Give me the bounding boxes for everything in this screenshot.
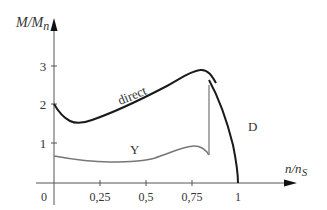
y-axis-title-main: M/M	[15, 15, 45, 30]
label-y: Y	[130, 142, 140, 157]
curve-d	[209, 80, 238, 183]
x-axis-title-sub: S	[302, 166, 308, 178]
y-axis-title-sub: n	[43, 19, 49, 33]
origin-label: 0	[41, 190, 47, 204]
y-tick-label-2: 2	[40, 97, 47, 112]
label-d: D	[248, 119, 257, 134]
y-axis-arrow-icon	[51, 18, 58, 31]
x-tick-label-1: 1	[235, 190, 241, 204]
y-axis-title: M/Mn	[15, 15, 49, 33]
x-tick-label-05: 0,5	[139, 190, 154, 204]
x-axis-arrow-icon	[284, 180, 297, 187]
x-axis-title-main: n/n	[285, 161, 302, 176]
x-tick-label-075: 0,75	[182, 190, 203, 204]
chart-canvas: 1 2 3 0 0,25 0,5 0,75 1 M/Mn n/nS direct…	[0, 0, 327, 210]
x-axis-title: n/nS	[285, 161, 308, 178]
y-tick-label-1: 1	[40, 136, 47, 151]
x-tick-label-025: 0,25	[90, 190, 111, 204]
y-tick-label-3: 3	[40, 59, 47, 74]
